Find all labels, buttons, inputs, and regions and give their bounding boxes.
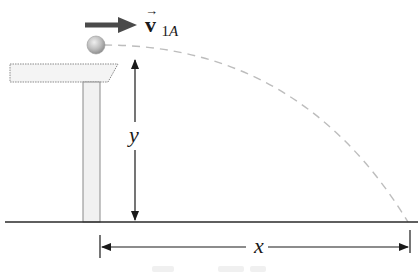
- velocity-subscript-letter: A: [169, 23, 178, 39]
- projectile-diagram: [0, 0, 418, 277]
- height-label: y: [127, 122, 141, 148]
- ball: [87, 36, 105, 54]
- velocity-arrow-icon: [85, 17, 137, 33]
- vector-arrow-icon: →: [145, 3, 158, 19]
- faded-caption-mark: [218, 266, 244, 272]
- faded-caption-mark: [152, 266, 174, 272]
- velocity-label: → v 1A: [145, 12, 178, 38]
- table-leg: [83, 82, 100, 222]
- velocity-subscript-number: 1: [162, 23, 170, 39]
- trajectory-path: [104, 45, 408, 222]
- faded-caption-mark: [250, 266, 266, 272]
- table-top: [10, 64, 118, 82]
- distance-label: x: [250, 233, 268, 259]
